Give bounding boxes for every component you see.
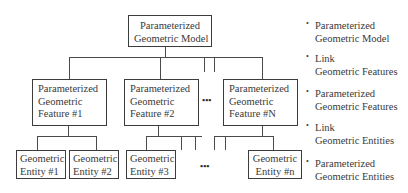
root-line-1: Parameterized [134, 20, 206, 33]
legend-5-line-1: Parameterized [315, 158, 394, 171]
connector-fN-stub-b [225, 136, 226, 150]
connector-f2-stub-a [181, 136, 182, 150]
entity-n-line-1: Geometric [252, 153, 298, 166]
connector-feature-bus [69, 57, 263, 58]
feature-n-line-2: Geometric [229, 96, 292, 109]
entity-n-line-2: Entity #n [252, 166, 298, 179]
connector-stub-a [204, 57, 205, 72]
legend-4-line-2: Geometric Entities [315, 135, 394, 148]
feature-2-line-1: Parameterized [130, 83, 193, 96]
connector-fN-bus [214, 136, 274, 137]
feature-1-line-3: Feature #1 [38, 108, 101, 121]
root-geometric-model-box: Parameterized Geometric Model [128, 15, 212, 47]
entity-1-line-2: Entity #1 [20, 166, 62, 179]
legend-4-line-1: Link [315, 122, 394, 135]
feature-box-2: Parameterized Geometric Feature #2 [124, 79, 199, 126]
connector-fN-stub-a [214, 136, 215, 150]
entity-2-line-1: Geometric [73, 153, 115, 166]
feature-n-line-3: Feature #N [229, 108, 292, 121]
connector-feature2 [160, 57, 161, 79]
entity-box-2: Geometric Entity #2 [69, 150, 119, 179]
features-ellipsis: ••• [202, 95, 211, 105]
legend-2-line-1: Link [315, 53, 398, 66]
connector-f1-bus [37, 136, 97, 137]
connector-f2-bus [146, 136, 202, 137]
legend-5-line-2: Geometric Entities [315, 171, 394, 184]
feature-2-line-2: Geometric [130, 96, 193, 109]
legend-2-line-2: Geometric Features [315, 66, 398, 79]
connector-entityn [273, 136, 274, 150]
connector-entity1 [37, 136, 38, 150]
connector-entity2 [96, 136, 97, 150]
legend-1-line-2: Geometric Model [315, 33, 389, 46]
entities-ellipsis: ••• [200, 161, 209, 171]
bullet-icon: • [306, 120, 309, 133]
root-line-2: Geometric Model [134, 33, 206, 46]
bullet-icon: • [306, 156, 309, 169]
bullet-icon: • [306, 18, 309, 31]
bullet-icon: • [306, 86, 309, 99]
entity-2-line-2: Entity #2 [73, 166, 115, 179]
connector-featureN [262, 57, 263, 79]
connector-stub-b [214, 57, 215, 72]
legend-3-line-2: Geometric Features [315, 101, 398, 114]
entity-3-line-1: Geometric [130, 153, 172, 166]
feature-box-n: Parameterized Geometric Feature #N [223, 79, 298, 126]
legend-1-line-1: Parameterized [315, 20, 389, 33]
feature-n-line-1: Parameterized [229, 83, 292, 96]
connector-feature1 [69, 57, 70, 79]
legend-3-line-1: Parameterized [315, 88, 398, 101]
entity-3-line-2: Entity #3 [130, 166, 172, 179]
feature-2-line-3: Feature #2 [130, 108, 193, 121]
entity-1-line-1: Geometric [20, 153, 62, 166]
connector-f2-stub-b [195, 136, 196, 150]
connector-entity3 [146, 136, 147, 150]
feature-box-1: Parameterized Geometric Feature #1 [32, 79, 107, 126]
entity-box-3: Geometric Entity #3 [126, 150, 176, 179]
entity-box-1: Geometric Entity #1 [16, 150, 66, 179]
feature-1-line-1: Parameterized [38, 83, 101, 96]
bullet-icon: • [306, 51, 309, 64]
entity-box-n: Geometric Entity #n [248, 150, 302, 179]
feature-1-line-2: Geometric [38, 96, 101, 109]
